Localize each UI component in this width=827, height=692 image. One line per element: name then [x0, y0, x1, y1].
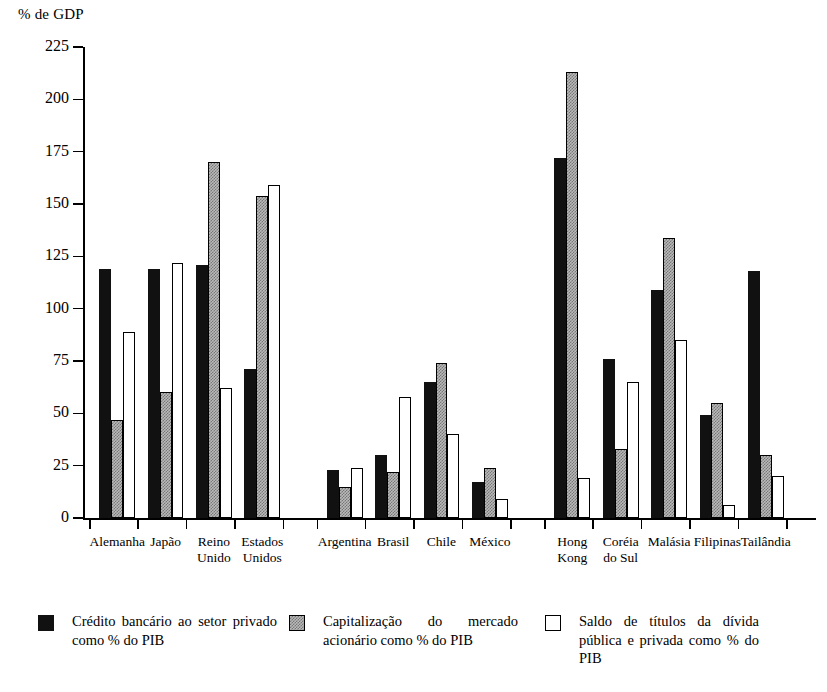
y-tick-label: 75 [15, 351, 69, 369]
y-tick-label: 100 [15, 299, 69, 317]
bar [172, 263, 184, 518]
plot-area: 0255075100125150175200225 [83, 47, 816, 518]
y-tick-label: 50 [15, 403, 69, 421]
legend-label: Capitalização do mercado acionário como … [323, 612, 518, 649]
bar [196, 265, 208, 518]
x-tick [89, 518, 91, 529]
x-tick [186, 518, 188, 529]
bar [256, 196, 268, 518]
bar [554, 158, 566, 518]
bar [268, 185, 280, 518]
x-axis-label-group: AlemanhaJapãoReino UnidoEstados UnidosAr… [83, 534, 816, 579]
x-tick [365, 518, 367, 529]
bar [603, 359, 615, 518]
bar [208, 162, 220, 518]
legend-swatch-white [545, 615, 561, 631]
y-tick-label: 200 [15, 89, 69, 107]
bar [339, 487, 351, 518]
bar [220, 388, 232, 518]
x-axis-label: Estados Unidos [228, 534, 298, 565]
bar [748, 271, 760, 518]
y-axis-title: % de GDP [18, 6, 84, 23]
bar [387, 472, 399, 518]
x-tick [738, 518, 740, 529]
x-tick [413, 518, 415, 529]
y-tick [73, 46, 83, 48]
y-tick-label: 225 [15, 37, 69, 55]
bar [627, 382, 639, 518]
bar [772, 476, 784, 518]
x-tick [234, 518, 236, 529]
x-tick [510, 518, 512, 529]
y-tick [73, 360, 83, 362]
bar [578, 478, 590, 518]
bar [651, 290, 663, 518]
bar [723, 505, 735, 518]
bar [484, 468, 496, 518]
bar-chart: % de GDP 0255075100125150175200225 Alema… [0, 0, 827, 692]
bar [472, 482, 484, 518]
y-tick [73, 517, 83, 519]
bar [351, 468, 363, 518]
y-tick [73, 308, 83, 310]
x-tick [462, 518, 464, 529]
x-tick [786, 518, 788, 529]
y-tick-label: 25 [15, 456, 69, 474]
x-tick [283, 518, 285, 529]
bar [663, 238, 675, 519]
bar [244, 369, 256, 518]
legend-swatch-black [38, 615, 54, 631]
y-tick [73, 203, 83, 205]
x-axis-label: México [455, 534, 525, 550]
x-tick [592, 518, 594, 529]
y-tick [73, 413, 83, 415]
bar [447, 434, 459, 518]
y-tick [73, 256, 83, 258]
bar [123, 332, 135, 518]
y-tick-label: 125 [15, 246, 69, 264]
y-tick [73, 465, 83, 467]
y-tick-label: 150 [15, 194, 69, 212]
bar [148, 269, 160, 518]
x-axis-line [83, 518, 816, 520]
x-tick [544, 518, 546, 529]
bar [327, 470, 339, 518]
bar [675, 340, 687, 518]
bar [760, 455, 772, 518]
bar [496, 499, 508, 518]
y-tick-label: 175 [15, 142, 69, 160]
x-tick [689, 518, 691, 529]
bar [711, 403, 723, 518]
x-tick [137, 518, 139, 529]
y-tick [73, 151, 83, 153]
legend-label: Crédito bancário ao setor privado como %… [72, 612, 277, 649]
bar [566, 72, 578, 518]
x-tick [317, 518, 319, 529]
bar [615, 449, 627, 518]
legend-label: Saldo de títulos da dívida pública e pri… [579, 612, 759, 668]
chart-legend: Crédito bancário ao setor privado como %… [0, 612, 827, 692]
bar [424, 382, 436, 518]
y-axis-line [83, 47, 85, 518]
x-tick [641, 518, 643, 529]
x-axis-label: Tailândia [731, 534, 801, 550]
bar [99, 269, 111, 518]
legend-swatch-gray [289, 615, 305, 631]
bar [111, 420, 123, 518]
bar [436, 363, 448, 518]
bar [399, 397, 411, 518]
bar [700, 415, 712, 518]
bar [160, 392, 172, 518]
y-tick [73, 99, 83, 101]
bar [375, 455, 387, 518]
y-tick-label: 0 [15, 508, 69, 526]
